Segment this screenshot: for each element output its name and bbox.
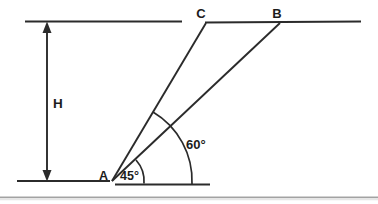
arrowhead-down-icon [43,170,52,182]
ray-a-to-b [112,23,280,181]
arrowhead-up-icon [43,22,52,34]
geometry-diagram-svg: H C B A 45° 60° [0,0,378,204]
diagram-labels: H C B A 45° 60° [53,6,282,183]
label-point-c: C [196,6,206,21]
label-height-h: H [53,96,63,111]
upper-parallel-line-right [205,22,361,23]
ray-a-to-c [112,23,206,181]
divider-dark-line [0,197,378,198]
divider-light-line [0,198,378,200]
label-angle-60: 60° [186,137,206,152]
bottom-divider-bar [0,197,378,201]
label-point-a: A [99,169,108,183]
label-angle-45: 45° [120,169,139,183]
label-point-b: B [272,6,281,21]
diagram-linework [17,22,361,185]
geometry-figure: H C B A 45° 60° [0,0,378,204]
